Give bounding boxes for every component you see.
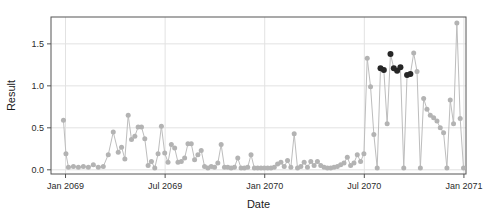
data-point	[418, 166, 423, 171]
x-tick-label-3: Jul 2070	[347, 181, 381, 191]
data-point	[421, 96, 426, 101]
data-point	[111, 130, 116, 135]
data-point	[401, 166, 406, 171]
x-tick-label-0: Jan 2069	[47, 181, 84, 191]
data-point	[249, 152, 254, 157]
data-point-highlighted	[387, 51, 393, 57]
x-tick-label-4: Jan 2071	[445, 181, 482, 191]
data-point	[454, 20, 459, 25]
data-point	[358, 159, 363, 164]
data-point	[288, 165, 293, 170]
data-point	[91, 162, 96, 167]
data-point	[126, 113, 131, 118]
data-point	[312, 163, 317, 168]
data-point	[172, 145, 177, 150]
data-point	[139, 124, 144, 129]
data-point	[424, 107, 429, 112]
data-point	[149, 159, 154, 164]
data-point	[365, 56, 370, 61]
data-point	[411, 51, 416, 56]
x-tick-label-2: Jan 2070	[246, 181, 283, 191]
data-point	[61, 118, 66, 123]
data-point	[351, 161, 356, 166]
y-tick-label-2: 1.0	[31, 81, 44, 91]
data-point-highlighted	[397, 64, 403, 70]
y-axis-label: Result	[5, 80, 17, 111]
data-point	[116, 150, 121, 155]
data-point	[101, 164, 106, 169]
data-point	[371, 132, 376, 137]
data-point	[189, 141, 194, 146]
data-point	[292, 131, 297, 136]
data-point	[192, 157, 197, 162]
data-point	[361, 151, 366, 156]
data-point	[355, 152, 360, 157]
data-point	[215, 161, 220, 166]
data-point	[385, 121, 390, 126]
data-point	[235, 156, 240, 161]
data-point	[434, 119, 439, 124]
data-point	[166, 160, 171, 165]
data-point	[96, 165, 101, 170]
data-point	[81, 164, 86, 169]
data-point	[132, 134, 137, 139]
data-point	[66, 165, 71, 170]
data-point	[375, 166, 380, 171]
data-point	[345, 155, 350, 160]
data-point	[461, 166, 466, 171]
data-point	[341, 161, 346, 166]
data-point	[156, 151, 161, 156]
data-point	[282, 164, 287, 169]
y-tick-label-3: 1.5	[31, 39, 44, 49]
chart-container: 0.00.51.01.5 Jan 2069Jul 2069Jan 2070Jul…	[0, 0, 501, 223]
data-point	[441, 130, 446, 135]
data-point	[451, 121, 456, 126]
data-point	[106, 152, 111, 157]
data-point	[162, 151, 167, 156]
data-point	[368, 84, 373, 89]
data-point	[195, 152, 200, 157]
data-point	[444, 166, 449, 171]
data-point	[119, 145, 124, 150]
data-point	[219, 142, 224, 147]
result-vs-date-line-chart: 0.00.51.01.5 Jan 2069Jul 2069Jan 2070Jul…	[0, 0, 501, 223]
data-point	[298, 164, 303, 169]
data-point	[278, 160, 283, 165]
data-point	[305, 165, 310, 170]
data-point-highlighted	[381, 67, 387, 73]
data-point	[182, 156, 187, 161]
data-point	[448, 98, 453, 103]
data-point	[308, 159, 313, 164]
data-point	[315, 159, 320, 164]
data-point	[232, 165, 237, 170]
data-point	[86, 165, 91, 170]
x-axis-label: Date	[247, 198, 270, 210]
y-tick-label-1: 0.5	[31, 123, 44, 133]
data-point	[245, 165, 250, 170]
data-point	[415, 69, 420, 74]
data-point	[146, 163, 151, 168]
data-point	[199, 148, 204, 153]
data-point-highlighted	[407, 71, 413, 77]
data-point	[458, 116, 463, 121]
data-point	[159, 124, 164, 129]
data-point	[302, 160, 307, 165]
y-tick-label-0: 0.0	[31, 165, 44, 175]
data-point	[152, 166, 157, 171]
data-point	[63, 151, 68, 156]
x-tick-label-1: Jul 2069	[148, 181, 182, 191]
data-point	[71, 164, 76, 169]
data-point	[212, 165, 217, 170]
data-point	[285, 158, 290, 163]
data-point	[76, 165, 81, 170]
data-point	[438, 125, 443, 130]
data-point	[142, 136, 147, 141]
data-point	[122, 156, 127, 161]
